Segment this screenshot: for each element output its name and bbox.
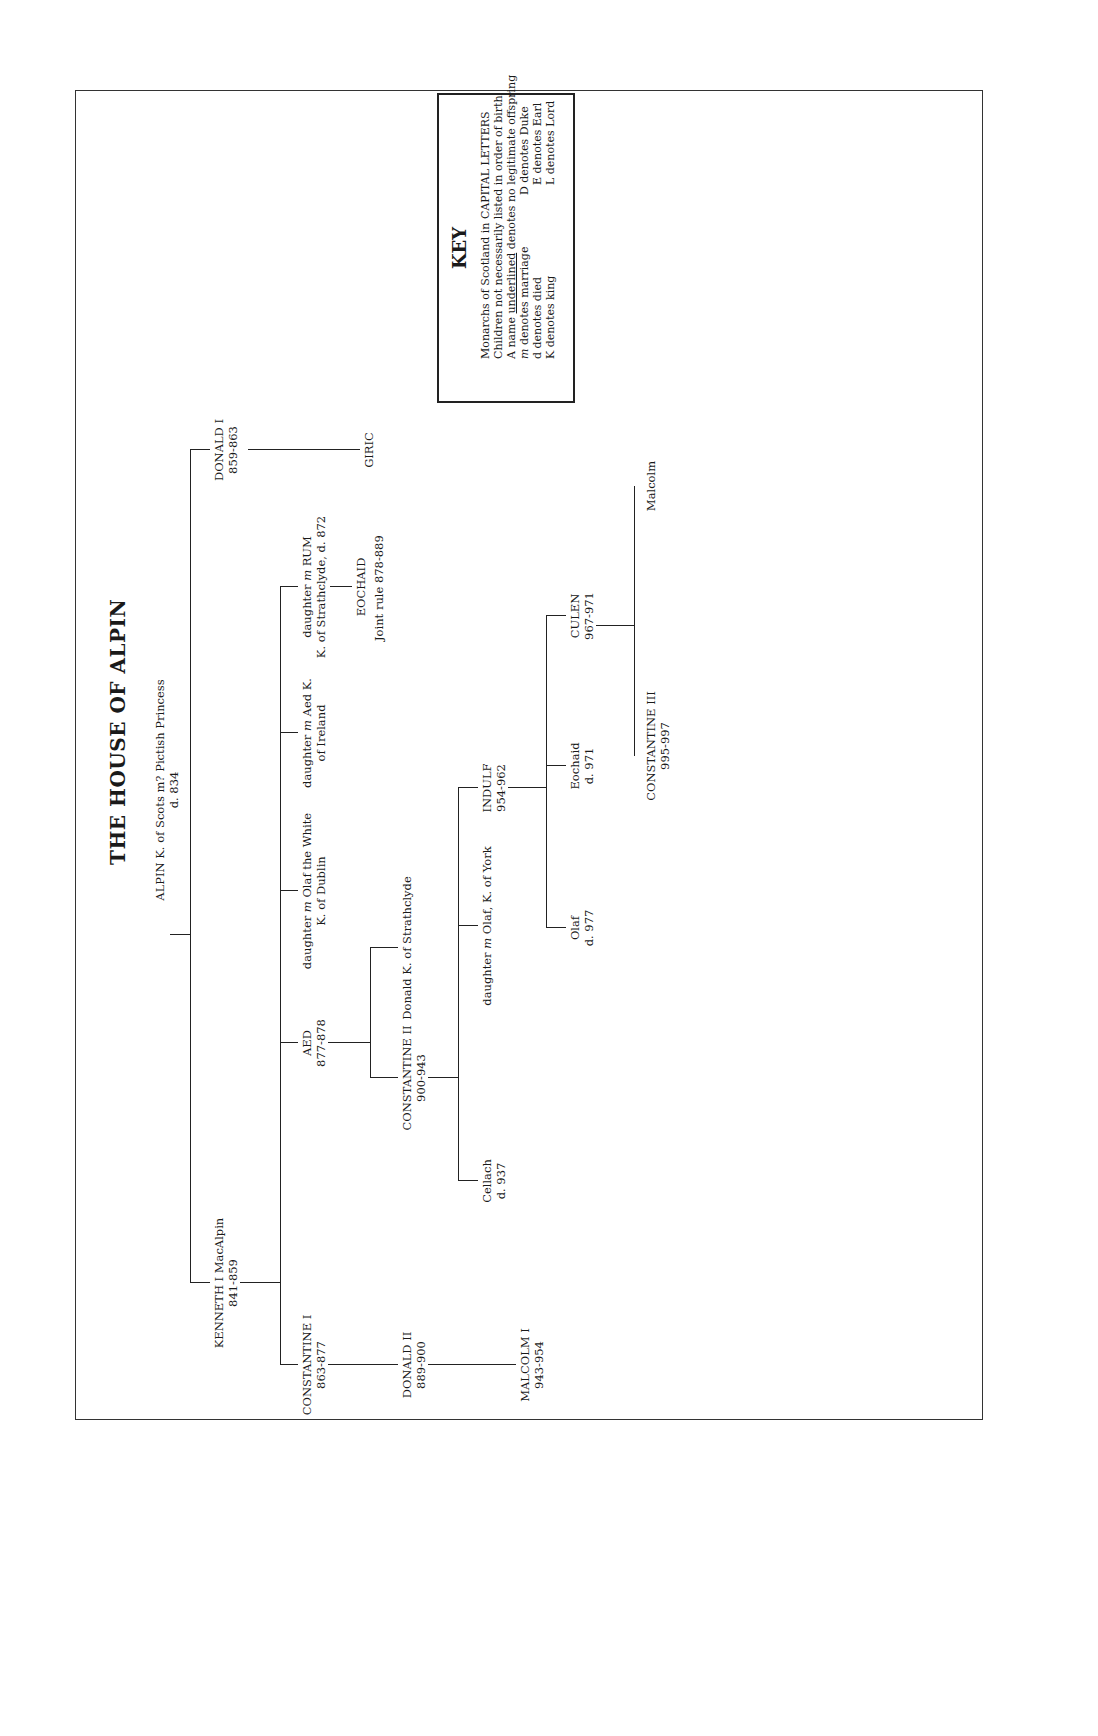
person-donald-ii: DONALD II 889-900 bbox=[400, 1332, 428, 1399]
connector bbox=[248, 449, 360, 450]
reign: 841-859 bbox=[226, 1218, 240, 1349]
name: Olaf bbox=[568, 910, 582, 947]
connector bbox=[428, 1077, 458, 1078]
reign: 995-997 bbox=[658, 691, 672, 801]
connector bbox=[280, 1042, 298, 1043]
connector bbox=[280, 1364, 298, 1365]
person-alpin: ALPIN K. of Scots m? Pictish Princess d.… bbox=[153, 679, 181, 900]
key-line: Monarchs of Scotland in CAPITAL LETTERS bbox=[479, 111, 492, 359]
connector bbox=[240, 1282, 280, 1283]
person-malcolm: Malcolm bbox=[644, 461, 658, 511]
connector bbox=[458, 787, 478, 788]
connector bbox=[370, 1077, 398, 1078]
name: INDULF bbox=[480, 763, 494, 812]
reign: 859-863 bbox=[226, 419, 240, 481]
key-line: Children not necessarily listed in order… bbox=[492, 95, 505, 359]
connector bbox=[280, 586, 298, 587]
connector bbox=[280, 587, 281, 1365]
person-daughter-olaf-york: daughter m Olaf, K. of York bbox=[480, 846, 494, 1005]
key-box: KEY Monarchs of Scotland in CAPITAL LETT… bbox=[437, 93, 575, 403]
key-line: A name underlined denotes no legitimate … bbox=[505, 75, 518, 359]
name: KENNETH I MacAlpin bbox=[212, 1218, 226, 1349]
connector bbox=[458, 925, 478, 926]
alpin-label: ALPIN K. of Scots m? Pictish Princess bbox=[153, 679, 167, 900]
reign: 863-877 bbox=[314, 1315, 328, 1415]
key-line-duke: D denotes Duke bbox=[518, 106, 531, 195]
person-daughter-aed-ireland: daughter m Aed K. of Ireland bbox=[300, 678, 328, 788]
line1: daughter m Olaf the White bbox=[300, 813, 314, 969]
line1: daughter m Aed K. bbox=[300, 678, 314, 788]
family-tree-page: THE HOUSE OF ALPIN KEY Monarchs of Scotl… bbox=[0, 0, 1098, 1736]
connector bbox=[370, 947, 398, 948]
line2: of Ireland bbox=[314, 678, 328, 788]
connector bbox=[190, 1282, 210, 1283]
died: d. 977 bbox=[582, 910, 596, 947]
connector bbox=[190, 449, 210, 450]
person-daughter-rum: daughter m RUM K. of Strathclyde, d. 872 bbox=[300, 516, 328, 658]
key-line-earl: E denotes Earl bbox=[531, 103, 544, 185]
reign: 900-943 bbox=[414, 1026, 428, 1131]
key-line-lord: L denotes Lord bbox=[544, 101, 557, 185]
key-heading: KEY bbox=[449, 95, 470, 401]
key-line: d denotes died bbox=[531, 277, 544, 359]
connector bbox=[170, 934, 190, 935]
connector bbox=[546, 616, 547, 928]
person-constantine-ii: CONSTANTINE II 900-943 bbox=[400, 1026, 428, 1131]
connector bbox=[546, 615, 566, 616]
name: MALCOLM I bbox=[518, 1328, 532, 1402]
connector bbox=[328, 1364, 398, 1365]
person-olaf: Olaf d. 977 bbox=[568, 910, 596, 947]
person-aed: AED 877-878 bbox=[300, 1019, 328, 1067]
name: CULEN bbox=[568, 592, 582, 640]
key-line: K denotes king bbox=[544, 276, 557, 359]
person-constantine-i: CONSTANTINE I 863-877 bbox=[300, 1315, 328, 1415]
name: CONSTANTINE II bbox=[400, 1026, 414, 1131]
eochaid-note: Joint rule 878-889 bbox=[372, 535, 386, 641]
person-daughter-olaf-white: daughter m Olaf the White K. of Dublin bbox=[300, 813, 328, 969]
connector bbox=[328, 1042, 370, 1043]
reign: 954-962 bbox=[494, 763, 508, 812]
connector bbox=[280, 890, 298, 891]
name: CONSTANTINE III bbox=[644, 691, 658, 801]
connector bbox=[634, 486, 635, 756]
person-constantine-iii: CONSTANTINE III 995-997 bbox=[644, 691, 672, 801]
person-cellach: Cellach d. 937 bbox=[480, 1159, 508, 1203]
name: AED bbox=[300, 1019, 314, 1067]
connector bbox=[458, 1180, 478, 1181]
alpin-died: d. 834 bbox=[167, 679, 181, 900]
died: d. 937 bbox=[494, 1159, 508, 1203]
connector bbox=[370, 948, 371, 1078]
connector bbox=[546, 765, 566, 766]
connector bbox=[458, 788, 459, 1181]
reign: 889-900 bbox=[414, 1332, 428, 1399]
person-donald-strathclyde: Donald K. of Strathclyde bbox=[400, 876, 414, 1020]
line2: K. of Dublin bbox=[314, 813, 328, 969]
connector bbox=[508, 787, 546, 788]
line2: K. of Strathclyde, d. 872 bbox=[314, 516, 328, 658]
line1: daughter m RUM bbox=[300, 516, 314, 658]
person-malcolm-i: MALCOLM I 943-954 bbox=[518, 1328, 546, 1402]
connector bbox=[330, 586, 352, 587]
person-giric: GIRIC bbox=[362, 432, 376, 468]
connector bbox=[280, 732, 298, 733]
reign: 943-954 bbox=[532, 1328, 546, 1402]
name: Eochaid bbox=[568, 742, 582, 789]
connector bbox=[190, 450, 191, 1283]
connector bbox=[596, 625, 634, 626]
person-indulf: INDULF 954-962 bbox=[480, 763, 508, 812]
name: CONSTANTINE I bbox=[300, 1315, 314, 1415]
died: d. 971 bbox=[582, 742, 596, 789]
key-line: m denotes marriage bbox=[518, 247, 531, 359]
page-title: THE HOUSE OF ALPIN bbox=[106, 599, 130, 865]
person-kenneth-i: KENNETH I MacAlpin 841-859 bbox=[212, 1218, 240, 1349]
reign: 967-971 bbox=[582, 592, 596, 640]
name: DONALD II bbox=[400, 1332, 414, 1399]
reign: 877-878 bbox=[314, 1019, 328, 1067]
person-eochaid-ii: Eochaid d. 971 bbox=[568, 742, 596, 789]
person-donald-i: DONALD I 859-863 bbox=[212, 419, 240, 481]
connector bbox=[546, 927, 566, 928]
person-culen: CULEN 967-971 bbox=[568, 592, 596, 640]
person-eochaid: EOCHAID bbox=[354, 558, 368, 617]
name: Cellach bbox=[480, 1159, 494, 1203]
connector bbox=[428, 1364, 516, 1365]
